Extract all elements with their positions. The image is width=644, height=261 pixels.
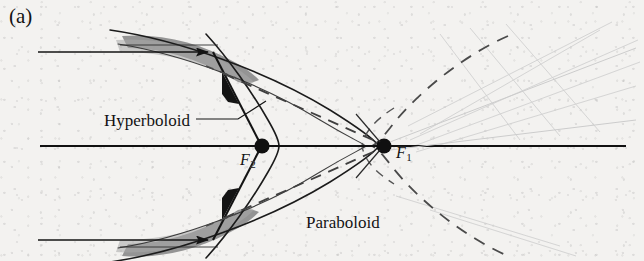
hyperboloid-label: Hyperboloid xyxy=(104,112,190,129)
focus-f1-label: F1 xyxy=(396,145,412,163)
figure-panel: (a) Hyperboloid Paraboloid F2 F1 xyxy=(0,0,644,261)
hyperboloid-leader-line xyxy=(196,101,266,119)
focus-f2-dot xyxy=(254,138,269,153)
focus-f1-label-subscript: 1 xyxy=(406,151,412,163)
panel-label: (a) xyxy=(9,6,32,27)
focus-f2-label-subscript: 2 xyxy=(250,158,256,170)
focus-f2-label-base: F xyxy=(240,151,250,168)
faint-scratch-marks xyxy=(396,22,640,256)
outgoing-faint-rays xyxy=(390,48,636,150)
virtual-ray-top-to-f1 xyxy=(224,74,382,144)
focus-f1-label-base: F xyxy=(396,144,406,161)
focus-f2-label: F2 xyxy=(240,152,256,170)
paraboloid-label: Paraboloid xyxy=(306,214,380,231)
